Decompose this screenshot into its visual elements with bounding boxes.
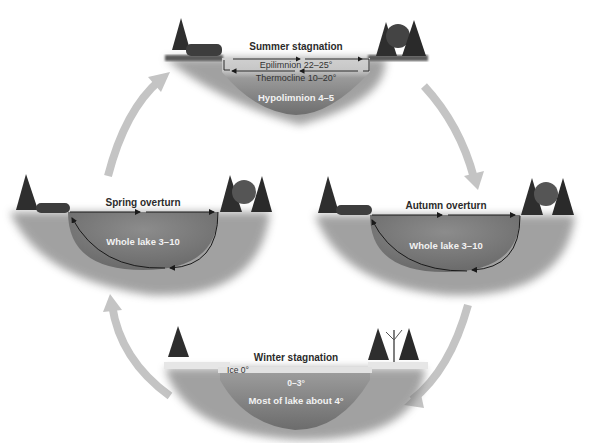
spring-lake: [10, 174, 272, 295]
spring-overturn-title: Spring overturn: [105, 197, 180, 208]
ice-label: Ice 0°: [227, 365, 249, 375]
tree-icon: [318, 176, 372, 215]
spring-whole-lake-label: Whole lake 3–10: [106, 236, 179, 247]
hypolimnion-label: Hypolimnion 4–5: [258, 92, 334, 103]
cycle-arrow-spring-to-summer: [108, 72, 170, 176]
tree-cluster-icon: [368, 328, 419, 362]
summer-stagnation-title: Summer stagnation: [249, 41, 342, 52]
autumn-whole-lake-label: Whole lake 3–10: [409, 240, 482, 251]
lake-turnover-diagram: Summer stagnation Epilimnion 22–25° Ther…: [0, 0, 590, 443]
cycle-arrow-summer-to-autumn: [424, 86, 484, 190]
summer-lake: [165, 18, 428, 125]
tree-cluster-icon: [376, 20, 426, 56]
epilimnion-label: Epilimnion 22–25°: [260, 60, 333, 70]
autumn-lake: [315, 176, 575, 295]
winter-most-lake-label: Most of lake about 4°: [248, 395, 343, 406]
autumn-overturn-title: Autumn overturn: [405, 200, 486, 211]
winter-stagnation-title: Winter stagnation: [254, 352, 338, 363]
tree-icon: [172, 18, 222, 56]
tree-icon: [168, 326, 189, 357]
tree-cluster-icon: [220, 175, 272, 212]
cycle-arrow-winter-to-spring: [103, 294, 170, 396]
tree-icon: [16, 174, 70, 213]
thermocline-label: Thermocline 10–20°: [256, 73, 337, 83]
tree-cluster-icon: [521, 178, 574, 215]
winter-surface-temp-label: 0–3°: [287, 378, 305, 388]
